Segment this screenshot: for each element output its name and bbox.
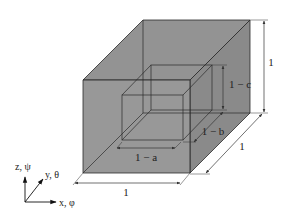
x-axis-label: x, φ bbox=[59, 197, 75, 208]
label-1-minus-c: 1 − c bbox=[229, 78, 251, 90]
coordinate-axes: z, ψ y, θ x, φ bbox=[15, 161, 75, 208]
label-outer-width: 1 bbox=[123, 186, 129, 198]
label-1-minus-b: 1 − b bbox=[202, 125, 225, 137]
outer-cube bbox=[83, 20, 250, 173]
z-axis-label: z, ψ bbox=[15, 161, 31, 172]
cube-diagram: 1 − a 1 − b 1 − c 1 1 1 z, ψ y, bbox=[0, 0, 290, 220]
dimension-outer-width: 1 bbox=[73, 173, 190, 198]
label-1-minus-a: 1 − a bbox=[135, 151, 157, 163]
dimension-outer-height: 1 bbox=[250, 20, 274, 113]
label-outer-height: 1 bbox=[268, 56, 274, 68]
y-axis-arrow bbox=[25, 179, 43, 202]
y-axis-label: y, θ bbox=[45, 169, 59, 180]
label-outer-depth: 1 bbox=[239, 140, 245, 152]
